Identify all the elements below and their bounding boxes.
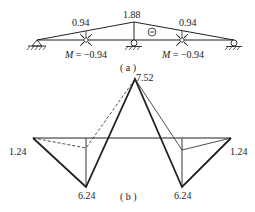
moment-value: = −0.94: [170, 49, 204, 60]
label-peak: 7.52: [136, 72, 154, 83]
moment-value: = −0.94: [73, 49, 107, 60]
caption-a: ( a ): [120, 62, 136, 74]
label-left-moment: M = −0.94: [64, 49, 107, 60]
thin-component-right: [135, 79, 231, 150]
label-left-end: 1.24: [9, 146, 27, 157]
label-right-moment: M = −0.94: [161, 49, 204, 60]
figure-a: 0.94 1.88 0.94 M = −0.94 M = −0.94 ( a ): [27, 9, 242, 74]
label-right-bottom: 6.24: [174, 190, 192, 201]
negative-sign-icon: [148, 28, 156, 36]
label-left-peak: 0.94: [72, 17, 90, 28]
caption-b: ( b ): [120, 191, 137, 203]
figure-b: 7.52 1.24 1.24 6.24 6.24 ( b ): [9, 72, 248, 203]
label-center-peak: 1.88: [123, 9, 141, 20]
structural-diagram: 0.94 1.88 0.94 M = −0.94 M = −0.94 ( a )…: [0, 0, 255, 212]
pin-support-left-icon: [27, 40, 46, 50]
final-moment-diagram: [33, 79, 231, 187]
roller-support-center-icon: [125, 40, 142, 50]
label-right-end: 1.24: [230, 146, 248, 157]
roller-support-right-icon: [225, 40, 242, 50]
moment-diagram-a: [37, 22, 234, 40]
label-left-bottom: 6.24: [78, 190, 96, 201]
label-right-peak: 0.94: [179, 17, 197, 28]
